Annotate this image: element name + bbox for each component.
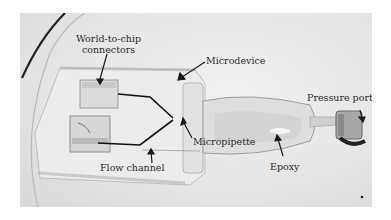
label-micropipette: Micropipette — [193, 136, 255, 147]
device-photo: World-to-chip connectors Microdevice Pre… — [20, 13, 372, 207]
label-flow-channel: Flow channel — [100, 162, 165, 173]
label-microdevice: Microdevice — [206, 55, 265, 66]
label-world-to-chip-line2: connectors — [76, 44, 141, 55]
label-pressure-port: Pressure port — [307, 92, 372, 103]
device-illustration — [20, 13, 372, 207]
label-world-to-chip-connectors: World-to-chip connectors — [76, 33, 141, 55]
label-world-to-chip-line1: World-to-chip — [76, 33, 141, 44]
label-epoxy: Epoxy — [270, 161, 299, 172]
